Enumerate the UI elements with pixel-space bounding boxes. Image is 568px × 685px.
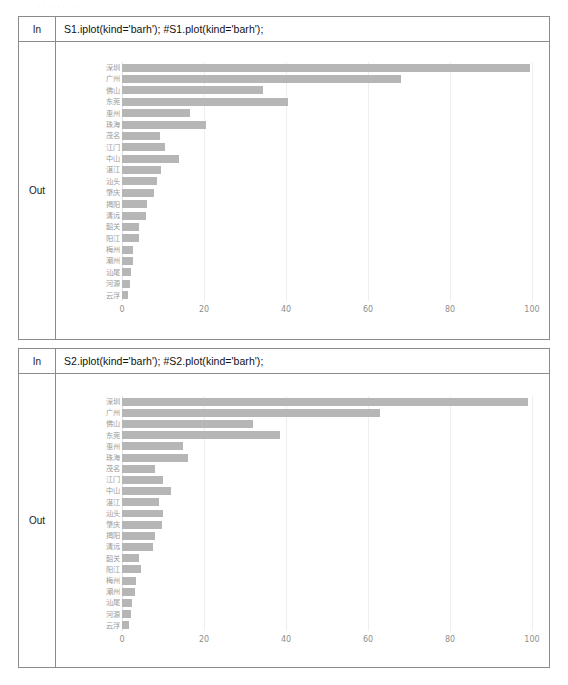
bar[interactable]: [122, 177, 157, 185]
bar-category-label: 珠海: [106, 454, 120, 461]
bar[interactable]: [122, 465, 155, 473]
x-axis-1: 020406080100: [122, 303, 532, 321]
bar-row: 江门: [122, 142, 532, 153]
output-row-1: Out 深圳广州佛山东莞惠州珠海茂名江门中山湛江汕头肇庆揭阳清远韶关阳江梅州潮州…: [19, 42, 549, 339]
gridline: [532, 62, 533, 301]
bar-category-label: 湛江: [106, 499, 120, 506]
chart-output-1: 深圳广州佛山东莞惠州珠海茂名江门中山湛江汕头肇庆揭阳清远韶关阳江梅州潮州汕尾河源…: [56, 42, 549, 339]
x-axis-tick-label: 80: [445, 635, 455, 644]
bar[interactable]: [122, 543, 153, 551]
bar-category-label: 中山: [106, 487, 120, 494]
bar-row: 东莞: [122, 430, 532, 441]
bar-category-label: 广州: [106, 75, 120, 82]
bar[interactable]: [122, 487, 171, 495]
bar[interactable]: [122, 143, 165, 151]
bar[interactable]: [122, 132, 160, 140]
bar[interactable]: [122, 189, 154, 197]
bar-category-label: 佛山: [106, 420, 120, 427]
bar[interactable]: [122, 588, 135, 596]
in-prompt-label-1: In: [19, 17, 56, 41]
bar-row: 梅州: [122, 575, 532, 586]
barh-chart-1: 深圳广州佛山东莞惠州珠海茂名江门中山湛江汕头肇庆揭阳清远韶关阳江梅州潮州汕尾河源…: [56, 42, 549, 339]
bar-category-label: 东莞: [106, 432, 120, 439]
bar[interactable]: [122, 498, 159, 506]
bar[interactable]: [122, 291, 128, 299]
plot-area-2: 深圳广州佛山东莞惠州珠海茂名江门中山湛江汕头肇庆揭阳清远韶关阳江梅州潮州汕尾河源…: [122, 396, 532, 631]
document-header-text: · · · · · · · · · ·: [38, 1, 218, 11]
bar[interactable]: [122, 398, 528, 406]
bar[interactable]: [122, 409, 380, 417]
bar[interactable]: [122, 621, 129, 629]
bar[interactable]: [122, 442, 183, 450]
notebook-page: · · · · · · · · · · In S1.iplot(kind='ba…: [0, 0, 568, 685]
bar-category-label: 惠州: [106, 443, 120, 450]
x-axis-tick-label: 40: [281, 305, 291, 314]
code-input-1[interactable]: S1.iplot(kind='barh'); #S1.plot(kind='ba…: [56, 17, 549, 41]
code-input-2[interactable]: S2.iplot(kind='barh'); #S2.plot(kind='ba…: [56, 349, 549, 373]
bar[interactable]: [122, 64, 530, 72]
bar[interactable]: [122, 166, 161, 174]
x-axis-tick-label: 100: [524, 305, 539, 314]
bar[interactable]: [122, 532, 155, 540]
bar[interactable]: [122, 234, 139, 242]
x-axis-tick-label: 60: [363, 305, 373, 314]
bar-category-label: 佛山: [106, 87, 120, 94]
bar-row: 中山: [122, 153, 532, 164]
x-axis-2: 020406080100: [122, 633, 532, 651]
bar-category-label: 肇庆: [106, 521, 120, 528]
bar[interactable]: [122, 577, 136, 585]
bar[interactable]: [122, 610, 131, 618]
bar-row: 江门: [122, 474, 532, 485]
bar-category-label: 惠州: [106, 110, 120, 117]
bar-category-label: 清远: [106, 543, 120, 550]
bar-row: 阳江: [122, 564, 532, 575]
bar[interactable]: [122, 554, 139, 562]
bar[interactable]: [122, 280, 130, 288]
bar-category-label: 清远: [106, 212, 120, 219]
bar[interactable]: [122, 121, 206, 129]
bar[interactable]: [122, 212, 146, 220]
bar[interactable]: [122, 246, 133, 254]
input-row-2: In S2.iplot(kind='barh'); #S2.plot(kind=…: [19, 349, 549, 374]
bar-row: 中山: [122, 486, 532, 497]
bar-category-label: 珠海: [106, 121, 120, 128]
bar-category-label: 云浮: [106, 622, 120, 629]
bar[interactable]: [122, 431, 280, 439]
bar[interactable]: [122, 75, 401, 83]
barh-chart-2: 深圳广州佛山东莞惠州珠海茂名江门中山湛江汕头肇庆揭阳清远韶关阳江梅州潮州汕尾河源…: [56, 374, 549, 667]
plot-area-1: 深圳广州佛山东莞惠州珠海茂名江门中山湛江汕头肇庆揭阳清远韶关阳江梅州潮州汕尾河源…: [122, 62, 532, 301]
bar[interactable]: [122, 476, 163, 484]
bar[interactable]: [122, 510, 163, 518]
bar[interactable]: [122, 257, 133, 265]
bar[interactable]: [122, 98, 288, 106]
bar[interactable]: [122, 268, 131, 276]
bar-category-label: 韶关: [106, 555, 120, 562]
bar[interactable]: [122, 565, 141, 573]
in-prompt-label-2: In: [19, 349, 56, 373]
bar[interactable]: [122, 223, 139, 231]
bar-category-label: 韶关: [106, 223, 120, 230]
bar-category-label: 广州: [106, 409, 120, 416]
bar-row: 清远: [122, 210, 532, 221]
bar[interactable]: [122, 599, 132, 607]
bar-row: 佛山: [122, 85, 532, 96]
bar-category-label: 汕头: [106, 178, 120, 185]
bar[interactable]: [122, 86, 263, 94]
chart-output-2: 深圳广州佛山东莞惠州珠海茂名江门中山湛江汕头肇庆揭阳清远韶关阳江梅州潮州汕尾河源…: [56, 374, 549, 667]
bar[interactable]: [122, 420, 253, 428]
bar-row: 揭阳: [122, 530, 532, 541]
bar-row: 梅州: [122, 244, 532, 255]
bar[interactable]: [122, 454, 188, 462]
bar[interactable]: [122, 155, 179, 163]
bar-category-label: 汕尾: [106, 269, 120, 276]
bar[interactable]: [122, 109, 190, 117]
bar-row: 湛江: [122, 497, 532, 508]
bar-series-1: 深圳广州佛山东莞惠州珠海茂名江门中山湛江汕头肇庆揭阳清远韶关阳江梅州潮州汕尾河源…: [122, 62, 532, 301]
bar-series-2: 深圳广州佛山东莞惠州珠海茂名江门中山湛江汕头肇庆揭阳清远韶关阳江梅州潮州汕尾河源…: [122, 396, 532, 631]
bar-row: 潮州: [122, 586, 532, 597]
bar-row: 惠州: [122, 108, 532, 119]
bar-row: 茂名: [122, 463, 532, 474]
bar-category-label: 湛江: [106, 166, 120, 173]
bar[interactable]: [122, 200, 147, 208]
bar[interactable]: [122, 521, 162, 529]
